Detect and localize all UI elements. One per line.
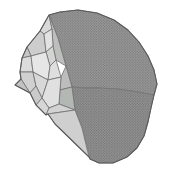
mesh-svg <box>0 0 173 178</box>
mesh-figure <box>0 0 173 178</box>
